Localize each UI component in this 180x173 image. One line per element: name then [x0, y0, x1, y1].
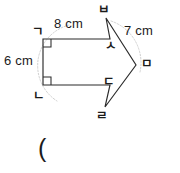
length-label-diagonal: 7 cm — [124, 24, 153, 37]
geometry-figure: 8 cm 6 cm 7 cm ㄱ ㄴ ㅂ ㅅ ㄷ ㅁ ㄹ ( — [0, 0, 180, 173]
vertex-label-r: ㄹ — [96, 110, 108, 123]
answer-parenthesis: ( — [38, 136, 46, 161]
vertex-label-d: ㄷ — [103, 76, 115, 89]
vertex-label-b: ㅂ — [98, 4, 110, 17]
vertex-label-s: ㅅ — [105, 40, 117, 53]
vertex-label-m: ㅁ — [141, 58, 153, 71]
figure-canvas — [0, 0, 180, 173]
vertex-label-n: ㄴ — [33, 90, 45, 103]
vertex-label-g: ㄱ — [32, 26, 44, 39]
length-label-top: 8 cm — [54, 17, 83, 30]
length-label-left: 6 cm — [4, 54, 33, 67]
arrow-polygon-outline — [43, 18, 136, 107]
right-angle-marker-bottom-left — [43, 77, 51, 85]
